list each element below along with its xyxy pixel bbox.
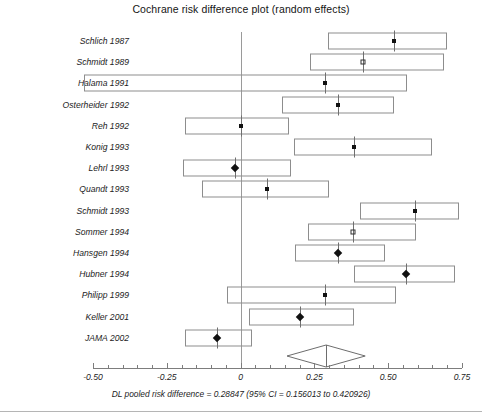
point-estimate-tick [217, 327, 218, 348]
x-axis-minor-tick [344, 365, 345, 368]
point-estimate-tick [338, 94, 339, 115]
x-axis-major-tick [462, 363, 463, 368]
forest-plot-figure: Cochrane risk difference plot (random ef… [0, 0, 482, 418]
x-axis-minor-tick [403, 365, 404, 368]
study-label: Sommer 1994 [0, 227, 132, 237]
study-label: Quandt 1993 [0, 184, 132, 194]
x-axis-minor-tick [359, 365, 360, 368]
study-label: Schmidt 1989 [0, 57, 132, 67]
point-estimate-tick [394, 31, 395, 52]
confidence-interval-box [308, 223, 416, 240]
confidence-interval-box [360, 202, 459, 219]
study-label-column: Schlich 1987Schmidt 1989Halama 1991Oster… [0, 0, 132, 360]
x-axis-minor-tick [211, 365, 212, 368]
zero-reference-line [241, 32, 242, 368]
study-label: Philipp 1999 [0, 290, 132, 300]
point-estimate-marker [295, 312, 303, 320]
point-estimate-marker [361, 60, 366, 65]
x-axis-tick-label: 0.25 [306, 372, 323, 382]
x-axis-major-tick [167, 363, 168, 368]
point-estimate-marker [213, 334, 221, 342]
point-estimate-marker [265, 187, 269, 191]
confidence-interval-box [294, 139, 433, 156]
x-axis-minor-tick [447, 365, 448, 368]
x-axis-minor-tick [226, 365, 227, 368]
confidence-interval-box [354, 266, 454, 283]
confidence-interval-box [185, 329, 253, 346]
bottom-divider [0, 411, 482, 412]
point-estimate-tick [325, 285, 326, 306]
x-axis-minor-tick [255, 365, 256, 368]
point-estimate-tick [300, 306, 301, 327]
point-estimate-tick [235, 158, 236, 179]
study-label: Schlich 1987 [0, 36, 132, 46]
point-estimate-tick [241, 115, 242, 136]
point-estimate-marker [350, 229, 355, 234]
point-estimate-marker [413, 209, 417, 213]
point-estimate-marker [402, 270, 410, 278]
point-estimate-tick [406, 264, 407, 285]
x-axis-minor-tick [137, 365, 138, 368]
study-label: Schmidt 1993 [0, 206, 132, 216]
x-axis-minor-tick [108, 365, 109, 368]
point-estimate-marker [352, 145, 356, 149]
study-label: Hubner 1994 [0, 269, 132, 279]
x-axis-minor-tick [196, 365, 197, 368]
confidence-interval-box [227, 287, 395, 304]
x-axis-minor-tick [418, 365, 419, 368]
study-label: Keller 2001 [0, 312, 132, 322]
x-axis-tick-label: 0 [238, 372, 243, 382]
x-axis-minor-tick [270, 365, 271, 368]
confidence-interval-box [310, 54, 444, 71]
x-axis-minor-tick [373, 365, 374, 368]
x-axis-minor-tick [123, 365, 124, 368]
confidence-interval-box [185, 117, 290, 134]
x-axis-minor-tick [285, 365, 286, 368]
study-label: Lehrl 1993 [0, 163, 132, 173]
pooled-effect-diamond [286, 344, 366, 368]
study-label: Halama 1991 [0, 78, 132, 88]
x-axis-tick-label: 0.75 [454, 372, 471, 382]
point-estimate-tick [353, 221, 354, 242]
point-estimate-tick [415, 200, 416, 221]
point-estimate-tick [363, 52, 364, 73]
point-estimate-marker [239, 124, 243, 128]
point-estimate-tick [325, 73, 326, 94]
study-label: Osterheider 1992 [0, 100, 132, 110]
point-estimate-tick [354, 137, 355, 158]
confidence-interval-box [328, 33, 448, 50]
point-estimate-tick [267, 179, 268, 200]
study-label: Hansgen 1994 [0, 248, 132, 258]
confidence-interval-box [183, 160, 291, 177]
confidence-interval-box [282, 96, 394, 113]
x-axis-major-tick [93, 363, 94, 368]
point-estimate-marker [334, 249, 342, 257]
x-axis-line [93, 368, 462, 369]
x-axis-minor-tick [152, 365, 153, 368]
confidence-interval-box [249, 308, 354, 325]
x-axis-major-tick [241, 363, 242, 368]
confidence-interval-box [84, 75, 407, 92]
point-estimate-marker [392, 39, 396, 43]
pooled-summary-note: DL pooled risk difference = 0.28847 (95%… [0, 389, 482, 399]
point-estimate-marker [230, 164, 238, 172]
x-axis-minor-tick [182, 365, 183, 368]
x-axis-tick-label: 0.50 [380, 372, 397, 382]
point-estimate-marker [336, 103, 340, 107]
study-label: JAMA 2002 [0, 333, 132, 343]
pooled-center-line [326, 345, 327, 367]
x-axis-minor-tick [329, 365, 330, 368]
point-estimate-marker [323, 81, 327, 85]
confidence-interval-box [295, 245, 385, 262]
x-axis-minor-tick [432, 365, 433, 368]
x-axis-minor-tick [300, 365, 301, 368]
confidence-interval-box [202, 181, 329, 198]
point-estimate-marker [323, 293, 327, 297]
x-axis-tick-label: -0.50 [83, 372, 103, 382]
x-axis-tick-label: -0.25 [157, 372, 177, 382]
x-axis-major-tick [388, 363, 389, 368]
x-axis-major-tick [314, 363, 315, 368]
point-estimate-tick [338, 243, 339, 264]
study-label: Konig 1993 [0, 142, 132, 152]
study-label: Reh 1992 [0, 121, 132, 131]
